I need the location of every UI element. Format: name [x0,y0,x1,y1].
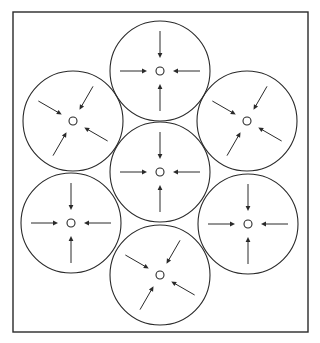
center-core-circle [67,219,75,227]
inward-arrow-icon [158,31,163,58]
inward-arrow-icon [258,128,281,142]
inward-arrow-icon [158,132,163,159]
center-core-circle [69,117,77,125]
inward-arrow-icon [125,255,148,269]
center-core-circle [243,117,251,125]
center-core-circle [156,168,164,176]
cell-center [110,122,210,222]
inward-arrow-icon [69,183,74,210]
inward-arrow-icon [80,86,94,109]
inward-arrow-icon [246,237,251,264]
cell-lower-right [198,174,298,274]
cell-top [110,21,210,121]
center-core-circle [244,220,252,228]
inward-arrow-icon [53,132,67,155]
inward-arrow-icon [84,221,111,226]
inward-arrow-icon [227,132,241,155]
inward-arrow-icon [212,101,235,115]
inward-arrow-icon [173,170,200,175]
cell-lower-left [21,173,121,273]
inward-arrow-icon [171,282,194,296]
cell-upper-right [197,71,297,171]
inward-arrow-icon [208,222,235,227]
inward-arrow-icon [158,84,163,111]
inward-arrow-icon [261,222,288,227]
inward-arrow-icon [140,286,154,309]
inward-arrow-icon [120,170,147,175]
inward-arrow-icon [84,128,107,142]
inward-arrow-icon [158,185,163,212]
cell-group [21,21,298,325]
inward-arrow-icon [167,240,181,263]
inward-arrow-icon [246,184,251,211]
center-core-circle [156,67,164,75]
cell-upper-left [23,71,123,171]
inward-arrow-icon [38,101,61,115]
hexagonal-cell-diagram [0,0,320,343]
inward-arrow-icon [120,69,147,74]
inward-arrow-icon [31,221,58,226]
inward-arrow-icon [254,86,268,109]
inward-arrow-icon [69,236,74,263]
inward-arrow-icon [173,69,200,74]
center-core-circle [156,271,164,279]
cell-bottom [110,225,210,325]
